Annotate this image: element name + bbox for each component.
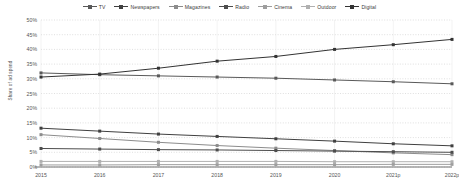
data-point-marker <box>157 163 160 166</box>
data-point-marker <box>392 150 395 153</box>
data-point-marker <box>98 163 101 166</box>
data-point-marker <box>274 77 277 80</box>
series-line-digital <box>41 39 452 77</box>
data-point-marker <box>333 150 336 153</box>
data-point-marker <box>157 74 160 77</box>
line-chart: TVNewspapersMagazinesRadioCinemaOutdoorD… <box>0 0 459 188</box>
data-point-marker <box>216 144 219 147</box>
data-point-marker <box>274 163 277 166</box>
data-point-marker <box>333 48 336 51</box>
data-point-marker <box>274 160 277 163</box>
data-point-marker <box>40 127 43 130</box>
data-point-marker <box>98 130 101 133</box>
data-point-marker <box>333 140 336 143</box>
data-point-marker <box>216 76 219 79</box>
data-point-marker <box>157 133 160 136</box>
data-point-marker <box>392 160 395 163</box>
data-point-marker <box>40 71 43 74</box>
series-line-radio <box>41 148 452 152</box>
data-point-marker <box>274 149 277 152</box>
data-point-marker <box>216 160 219 163</box>
data-point-marker <box>392 43 395 46</box>
data-point-marker <box>157 148 160 151</box>
data-point-marker <box>98 73 101 76</box>
data-point-marker <box>98 160 101 163</box>
data-point-marker <box>216 60 219 63</box>
data-point-marker <box>40 160 43 163</box>
data-point-marker <box>274 55 277 58</box>
data-point-marker <box>451 38 454 41</box>
data-point-marker <box>216 163 219 166</box>
plot-svg <box>0 0 459 188</box>
data-point-marker <box>451 82 454 85</box>
data-point-marker <box>157 160 160 163</box>
data-point-marker <box>40 133 43 136</box>
data-point-marker <box>98 137 101 140</box>
data-point-marker <box>40 76 43 79</box>
data-point-marker <box>392 80 395 83</box>
data-point-marker <box>392 142 395 145</box>
data-point-marker <box>40 163 43 166</box>
data-point-marker <box>157 141 160 144</box>
data-point-marker <box>451 160 454 163</box>
data-point-marker <box>333 163 336 166</box>
data-point-marker <box>216 148 219 151</box>
data-point-marker <box>333 78 336 81</box>
data-point-marker <box>157 67 160 70</box>
data-point-marker <box>98 148 101 151</box>
data-point-marker <box>451 144 454 147</box>
series-line-newspapers <box>41 128 452 146</box>
data-point-marker <box>40 147 43 150</box>
data-point-marker <box>274 137 277 140</box>
data-point-marker <box>451 163 454 166</box>
data-point-marker <box>451 151 454 154</box>
series-line-tv <box>41 73 452 84</box>
plot-area <box>0 0 459 188</box>
data-point-marker <box>216 135 219 138</box>
data-point-marker <box>333 160 336 163</box>
series-line-cinema <box>41 164 452 165</box>
data-point-marker <box>392 163 395 166</box>
